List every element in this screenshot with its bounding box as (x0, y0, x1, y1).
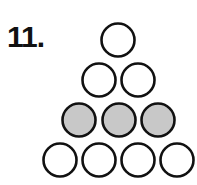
empty-circle (161, 144, 194, 177)
shaded-circle (142, 104, 175, 137)
empty-circle (122, 144, 155, 177)
empty-circle (44, 144, 77, 177)
empty-circle (122, 64, 155, 97)
empty-circle (83, 64, 116, 97)
shaded-circle (103, 104, 136, 137)
circle-triangle-figure (0, 0, 197, 185)
shaded-circle (63, 104, 96, 137)
empty-circle (102, 24, 135, 57)
empty-circle (83, 144, 116, 177)
